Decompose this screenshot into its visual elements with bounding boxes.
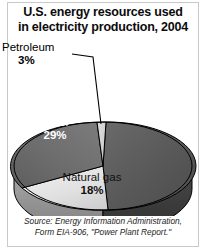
pie-label-coal-value: 50% bbox=[112, 110, 176, 123]
pie-label-natural-gas-value: 18% bbox=[44, 184, 140, 197]
pie-label-other-value: 29% bbox=[24, 129, 86, 142]
pie-chart-plot-area: Coal 50% Other 29% Natural gas 18% Petro… bbox=[0, 38, 206, 216]
pie-label-petroleum-value: 3% bbox=[2, 54, 82, 67]
pie-label-petroleum: Petroleum 3% bbox=[2, 41, 82, 67]
chart-source-line-2: Form EIA-906, "Power Plant Report." bbox=[0, 227, 206, 238]
pie-label-petroleum-name: Petroleum bbox=[2, 41, 82, 54]
chart-title-line-2: in electricity production, 2004 bbox=[0, 20, 206, 35]
pie-label-natural-gas-name: Natural gas bbox=[44, 171, 140, 184]
chart-title: U.S. energy resources used in electricit… bbox=[0, 5, 206, 35]
chart-title-line-1: U.S. energy resources used bbox=[0, 5, 206, 20]
pie-chart-figure: U.S. energy resources used in electricit… bbox=[0, 0, 206, 250]
pie-label-coal: Coal 50% bbox=[112, 97, 176, 123]
pie-label-other-name: Other bbox=[24, 116, 86, 129]
chart-source-caption: Source: Energy Information Administratio… bbox=[0, 216, 206, 238]
chart-source-line-1: Source: Energy Information Administratio… bbox=[0, 216, 206, 227]
pie-label-other: Other 29% bbox=[24, 116, 86, 142]
pie-label-natural-gas: Natural gas 18% bbox=[44, 171, 140, 197]
